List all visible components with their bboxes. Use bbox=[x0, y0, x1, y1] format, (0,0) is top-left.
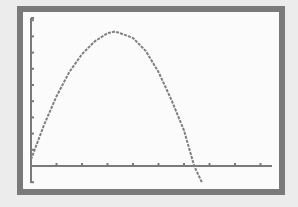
parabola-curve bbox=[31, 32, 202, 183]
graph-plot bbox=[0, 0, 298, 207]
